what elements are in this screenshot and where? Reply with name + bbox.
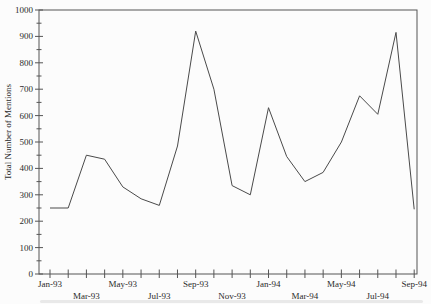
y-tick-label: 300 <box>20 190 34 200</box>
y-tick-label: 500 <box>20 137 34 147</box>
y-tick-label: 0 <box>29 269 34 279</box>
x-tick-label: Nov-93 <box>218 291 246 301</box>
y-tick-label: 400 <box>20 163 34 173</box>
x-tick-label: Jul-94 <box>367 291 390 301</box>
y-axis-title: Total Number of Mentions <box>3 83 13 180</box>
y-tick-label: 600 <box>20 111 34 121</box>
y-tick-label: 200 <box>20 216 34 226</box>
total-mentions-line-chart: 01002003004005006007008009001000Jan-93Ma… <box>0 0 431 304</box>
y-tick-label: 900 <box>20 31 34 41</box>
y-tick-label: 100 <box>20 243 34 253</box>
x-tick-label: Jul-93 <box>148 291 171 301</box>
x-tick-label: Jan-94 <box>257 279 281 289</box>
x-tick-label: Mar-93 <box>73 291 100 301</box>
y-tick-label: 800 <box>20 58 34 68</box>
chart-frame <box>39 10 417 274</box>
y-tick-label: 700 <box>20 84 34 94</box>
x-tick-label: Sep-94 <box>401 279 427 289</box>
x-tick-label: May-93 <box>109 279 138 289</box>
chart-page: 01002003004005006007008009001000Jan-93Ma… <box>0 0 431 304</box>
mentions-data-line <box>50 31 414 209</box>
x-tick-label: Sep-93 <box>183 279 209 289</box>
x-tick-label: Jan-93 <box>38 279 62 289</box>
x-tick-label: May-94 <box>327 279 356 289</box>
x-tick-label: Mar-94 <box>292 291 319 301</box>
scan-artifact <box>40 300 423 303</box>
y-tick-label: 1000 <box>15 5 34 15</box>
